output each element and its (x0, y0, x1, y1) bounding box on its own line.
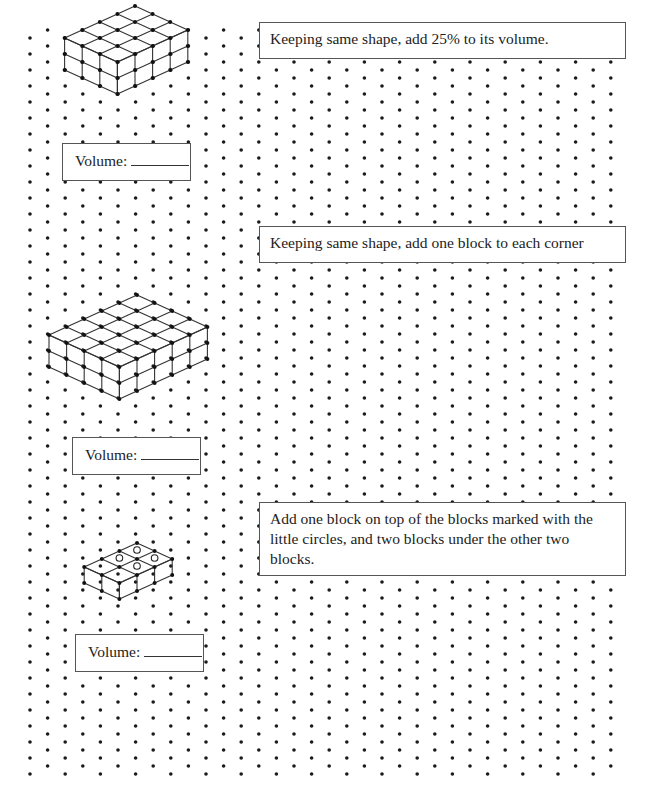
instruction-box-3: Add one block on top of the blocks marke… (259, 502, 626, 576)
volume-answer-field-3[interactable] (144, 643, 202, 657)
volume-answer-field-2[interactable] (141, 446, 199, 460)
instruction-box-2: Keeping same shape, add one block to eac… (259, 226, 626, 263)
volume-answer-field-1[interactable] (131, 152, 189, 166)
volume-label-2: Volume: (85, 446, 137, 463)
instruction-text-3: Add one block on top of the blocks marke… (270, 510, 593, 567)
isometric-dot-grid (0, 0, 648, 791)
instruction-text-2: Keeping same shape, add one block to eac… (270, 234, 584, 251)
volume-box-1: Volume: (62, 143, 191, 181)
volume-box-2: Volume: (72, 437, 201, 475)
instruction-text-1: Keeping same shape, add 25% to its volum… (270, 30, 549, 47)
instruction-box-1: Keeping same shape, add 25% to its volum… (259, 22, 626, 59)
volume-label-3: Volume: (88, 643, 140, 660)
volume-box-3: Volume: (75, 634, 204, 672)
volume-label-1: Volume: (75, 152, 127, 169)
